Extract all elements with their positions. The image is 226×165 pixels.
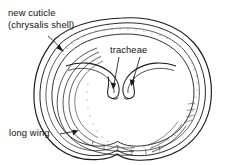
- long-wing-layers: [57, 48, 195, 155]
- label-long-wing: long wing: [9, 127, 50, 139]
- label-tracheae: tracheae: [110, 44, 147, 56]
- chrysalis-diagram: new cuticle (chrysalis shell) tracheae l…: [0, 0, 226, 165]
- tracheae-callout-right: [130, 57, 140, 86]
- tracheae-callout-left: [111, 57, 119, 89]
- label-new-cuticle: new cuticle (chrysalis shell): [8, 7, 74, 30]
- long-wing-callout: [60, 130, 78, 136]
- label-new-cuticle-line2: (chrysalis shell): [8, 19, 74, 31]
- label-new-cuticle-line1: new cuticle: [8, 7, 74, 19]
